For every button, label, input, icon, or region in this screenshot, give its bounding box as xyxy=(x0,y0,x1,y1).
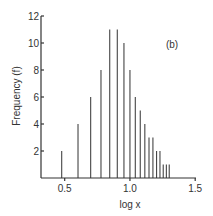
x-tick-label: 1.0 xyxy=(123,183,137,194)
y-axis-label: Frequency (f) xyxy=(11,66,22,125)
x-tick-label: 1.5 xyxy=(188,183,202,194)
x-ticks: 0.51.01.5 xyxy=(58,178,203,194)
y-tick-label: 6 xyxy=(33,92,39,103)
panel-label: (b) xyxy=(166,39,178,50)
y-tick-label: 10 xyxy=(28,38,40,49)
y-tick-label: 2 xyxy=(33,146,39,157)
y-tick-label: 4 xyxy=(33,119,39,130)
x-axis-label: log x xyxy=(119,199,140,210)
y-tick-label: 8 xyxy=(33,65,39,76)
x-tick-label: 0.5 xyxy=(58,183,72,194)
y-tick-label: 12 xyxy=(28,11,40,22)
frequency-chart: 24681012 0.51.01.5 (b) log x Frequency (… xyxy=(0,0,213,216)
bars-group xyxy=(62,30,170,179)
